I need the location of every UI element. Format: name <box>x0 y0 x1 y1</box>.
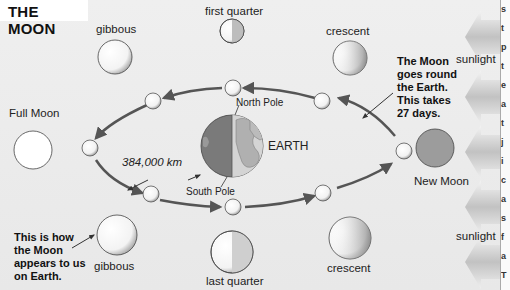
moon-new <box>416 129 454 167</box>
label-sunlight-bottom: sunlight <box>456 230 496 242</box>
label-north-pole: North Pole <box>236 97 283 108</box>
label-gibbous-top: gibbous <box>96 23 136 35</box>
label-distance: 384,000 km <box>122 156 182 168</box>
label-sunlight-top: sunlight <box>456 53 496 65</box>
distance-pointer-earth <box>188 175 200 180</box>
note-appearance: This is how the Moon appears to us on Ea… <box>14 231 86 283</box>
label-south-pole: South Pole <box>186 186 235 197</box>
earth-globe <box>201 105 268 187</box>
label-full-moon: Full Moon <box>9 107 60 119</box>
note-orbit: The Moon goes round the Earth. This take… <box>397 55 457 120</box>
label-earth: EARTH <box>268 139 308 153</box>
label-last-quarter: last quarter <box>206 275 264 287</box>
label-gibbous-bottom: gibbous <box>94 260 134 272</box>
moon-gibbous-top <box>98 40 132 74</box>
adjacent-page-edge: stp tea tji cas faT <box>500 0 510 290</box>
page-title: THE MOON <box>0 0 88 21</box>
label-crescent-bottom: crescent <box>327 262 370 274</box>
label-first-quarter: first quarter <box>205 5 263 17</box>
label-new-moon: New Moon <box>414 175 469 187</box>
orbit-note-pointer <box>363 93 393 118</box>
moon-full <box>14 131 52 169</box>
sunlight-arrows <box>465 10 500 289</box>
moon-gibbous-bottom <box>97 215 137 255</box>
label-crescent-top: crescent <box>326 25 369 37</box>
